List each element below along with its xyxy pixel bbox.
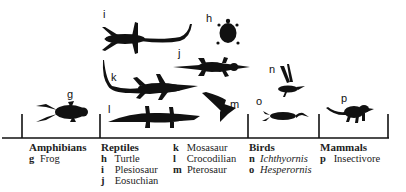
legend-item: p Insectivore xyxy=(320,153,380,164)
legend-item: oHesperornis xyxy=(249,164,312,175)
figure-label-j: j xyxy=(178,48,180,59)
legend-heading: Birds xyxy=(249,142,312,153)
hesperornis-silhouette-icon xyxy=(262,111,309,121)
turtle-silhouette-icon xyxy=(216,19,239,45)
legend-reptiles-cont: k Mosasaur l Crocodilian mPterosaur xyxy=(173,153,236,175)
figure-label-m: m xyxy=(230,99,239,110)
figure-label-l: l xyxy=(108,104,110,115)
figure-label-g: g xyxy=(67,89,73,100)
figure-label-p: p xyxy=(341,93,347,104)
legend-item: h Turtle xyxy=(101,153,158,164)
legend-item: k Mosasaur xyxy=(173,142,236,153)
ichthyornis-silhouette-icon xyxy=(278,64,305,97)
legend-birds: Birds nIchthyornis oHesperornis xyxy=(249,142,312,175)
mosasaur-silhouette-icon xyxy=(103,60,198,100)
eosuchian-silhouette-icon xyxy=(173,57,250,77)
legend-mammals: Mammals p Insectivore xyxy=(320,142,380,164)
figure-label-n: n xyxy=(269,64,275,75)
legend-item: i Plesiosaur xyxy=(101,164,158,175)
legend-item: mPterosaur xyxy=(173,164,236,175)
figure-label-h: h xyxy=(206,13,212,24)
figure-label-i: i xyxy=(103,9,105,20)
legend-item: j Eosuchian xyxy=(101,175,158,186)
legend-reptiles: Reptiles h Turtle i Plesiosaur j Eosuchi… xyxy=(101,142,158,186)
legend-item: l Crocodilian xyxy=(173,153,236,164)
crocodilian-silhouette-icon xyxy=(108,106,200,128)
legend-amphibians: Amphibians gFrog xyxy=(29,142,86,164)
legend-heading: Mammals xyxy=(320,142,380,153)
frog-silhouette-icon xyxy=(36,101,88,122)
legend-item: gFrog xyxy=(29,153,86,164)
figure-label-o: o xyxy=(256,96,262,107)
legend-heading: Amphibians xyxy=(29,142,86,153)
figure-label-k: k xyxy=(111,72,117,83)
legend-heading: Reptiles xyxy=(101,142,158,153)
insectivore-silhouette-icon xyxy=(326,105,374,123)
legend-item: nIchthyornis xyxy=(249,153,312,164)
